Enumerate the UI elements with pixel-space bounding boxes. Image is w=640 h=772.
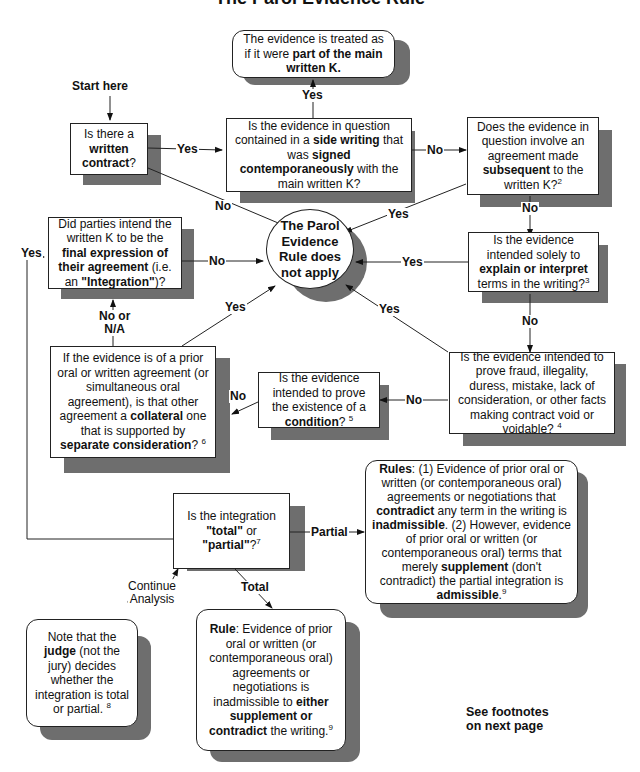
edge-label-no-subsequent: No — [521, 202, 539, 215]
page-title: The Parol Evidence Rule — [0, 0, 640, 6]
edge-label-no-condition: No — [229, 390, 247, 403]
node-total-or-partial-question: Is the integration "total" or "partial"?… — [173, 493, 290, 569]
node-condition-question: Is the evidence intended to prove the ex… — [258, 372, 380, 428]
node-judge-decides-note: Note that the judge (not the jury) decid… — [26, 619, 138, 727]
edge-label-yes-side-writing: Yes — [301, 89, 324, 102]
edge-label-no-side-writing: No — [426, 144, 444, 157]
node-partial-integration-rules: Rules: (1) Evidence of prior oral or wri… — [365, 460, 578, 604]
footnotes-reference: See footnotes on next page — [466, 705, 549, 733]
edge-label-partial: Partial — [310, 526, 349, 539]
node-total-integration-rule: Rule: Evidence of prior oral or written … — [196, 609, 346, 751]
edge-label-no-or-na: No or N/A — [98, 310, 131, 336]
node-treated-as-part-of-contract: The evidence is treated as if it were pa… — [232, 30, 395, 78]
edge-label-no-explain: No — [521, 315, 539, 328]
edge-label-no-fraud: No — [405, 394, 423, 407]
edge-label-continue-analysis: Continue Analysis — [128, 580, 176, 606]
node-side-writing-question: Is the evidence in question contained in… — [226, 118, 412, 192]
edge-label-yes-fraud: Yes — [378, 303, 401, 316]
edge-label-yes-explain: Yes — [401, 256, 424, 269]
edge-label-no-final-expression: No — [208, 255, 226, 268]
edge-label-no-written-contract: No — [214, 200, 232, 213]
edge-label-total: Total — [240, 581, 270, 594]
node-parol-evidence-rule-does-not-apply: The Parol Evidence Rule does not apply — [266, 209, 354, 289]
node-collateral-agreement-question: If the evidence is of a prior oral or wr… — [50, 346, 216, 458]
edge-label-yes-written-contract: Yes — [176, 143, 199, 156]
node-written-contract-question: Is there a written contract? — [70, 123, 148, 175]
start-here-label: Start here — [72, 80, 128, 93]
node-subsequent-agreement-question: Does the evidence in question involve an… — [467, 117, 599, 195]
edge-label-yes-collateral: Yes — [224, 301, 247, 314]
node-explain-interpret-question: Is the evidence intended solely to expla… — [468, 232, 599, 292]
edge-label-yes-loop: Yes — [20, 247, 43, 260]
node-final-expression-question: Did parties intend the written K to be t… — [48, 217, 182, 289]
node-fraud-void-question: Is the evidence intended to prove fraud,… — [449, 352, 615, 434]
edge-label-yes-subsequent: Yes — [387, 208, 410, 221]
